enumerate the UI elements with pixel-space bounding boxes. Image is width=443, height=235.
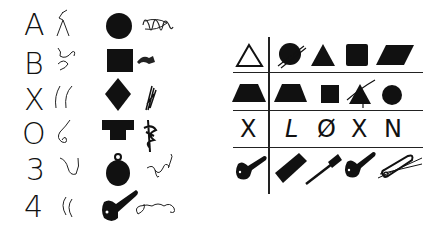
cell-x-key: X: [240, 117, 256, 141]
crossed-circle-icon: [276, 42, 308, 70]
trapezoid-key-icon: [232, 84, 268, 106]
symbol-3: 3: [26, 155, 45, 185]
cell-x: X: [351, 117, 367, 141]
trapezoid-icon: [274, 84, 310, 106]
scribble-b-icon: [54, 46, 78, 74]
cell-n: N: [384, 117, 402, 141]
grid-vertical-line: [268, 37, 270, 194]
scribble-o-icon: [54, 118, 76, 146]
scribble-x-icon: [52, 84, 78, 112]
circle-solid-icon: [382, 85, 404, 107]
scribble-diamond-icon: [144, 84, 158, 112]
square-solid-icon: [346, 44, 370, 68]
diamond-shape-icon: [105, 78, 135, 114]
square-small-icon: [321, 85, 341, 105]
scribble-t-icon: [142, 118, 158, 152]
symbol-b: B: [24, 49, 44, 79]
crossed-safety-pin-icon: [378, 152, 424, 180]
square-shape-icon: [107, 49, 137, 79]
crossed-triangle-icon: [345, 78, 379, 106]
scribble-circle-icon: [141, 15, 173, 35]
grid-row-divider-3: [233, 147, 423, 148]
cell-l: L: [285, 117, 298, 141]
fine-comb-icon: [304, 152, 344, 186]
grid-row-divider-2: [233, 110, 423, 111]
symbol-x: X: [24, 85, 45, 115]
scribble-3-icon: [58, 156, 82, 184]
triangle-solid-icon: [311, 44, 337, 68]
scribble-key-icon: [134, 200, 176, 216]
circle-shape-icon: [105, 12, 135, 42]
key-icon: [343, 152, 377, 182]
round-pendant-icon: [104, 153, 134, 189]
parallelogram-icon: [376, 45, 416, 69]
scribble-4-icon: [60, 195, 80, 221]
symbol-a: A: [24, 10, 45, 40]
scribble-square-icon: [137, 54, 157, 68]
scribble-pendant-icon: [145, 152, 175, 182]
cell-slashed-zero: Ø: [317, 117, 336, 141]
triangle-outline-icon: [236, 44, 264, 68]
symbol-4: 4: [24, 192, 43, 222]
symbol-o: O: [22, 119, 46, 149]
key-row-key-icon: [234, 154, 268, 184]
grid-row-divider-1: [233, 72, 423, 73]
scribble-a-icon: [53, 10, 73, 40]
t-shape-icon: [102, 120, 136, 150]
